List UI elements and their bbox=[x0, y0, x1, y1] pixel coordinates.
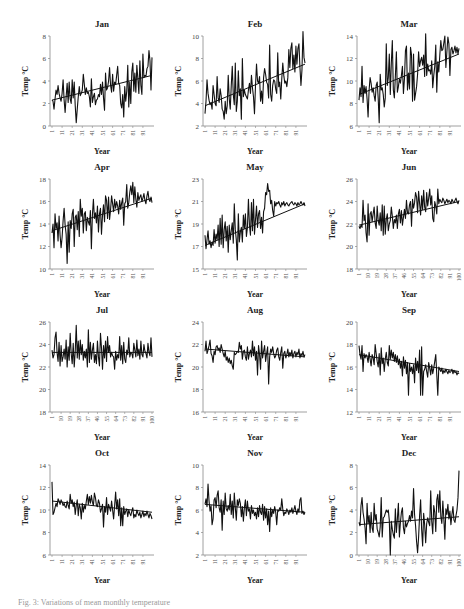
chart-aug: Aug16182022241112131415161718191YearTemp… bbox=[155, 300, 310, 448]
x-tick-label: 91 bbox=[447, 559, 453, 565]
y-tick-label: 20 bbox=[39, 386, 47, 394]
y-tick-label: 8 bbox=[350, 100, 354, 108]
x-tick-label: 11 bbox=[212, 559, 218, 565]
x-tick-label: 51 bbox=[407, 416, 413, 422]
y-tick-label: 0 bbox=[350, 552, 354, 560]
temperature-series bbox=[52, 182, 152, 263]
chart-svg: Oct681012141112131415161718191YearTemp °… bbox=[2, 443, 157, 591]
y-tick-label: 16 bbox=[346, 364, 354, 372]
x-tick-label: 21 bbox=[376, 130, 382, 136]
x-tick-label: 81 bbox=[130, 559, 136, 565]
y-tick-label: 4 bbox=[196, 529, 200, 537]
x-tick-label: 1 bbox=[49, 416, 55, 419]
y-tick-label: 6 bbox=[196, 78, 200, 86]
chart-svg: Nov2468101112131415161718191YearTemp °C bbox=[155, 443, 310, 591]
x-tick-label: 41 bbox=[242, 416, 248, 422]
temperature-series bbox=[52, 325, 152, 369]
x-tick-label: 1 bbox=[356, 416, 362, 419]
x-tick-label: 10 bbox=[365, 273, 371, 279]
x-tick-label: 51 bbox=[100, 130, 106, 136]
temperature-series bbox=[52, 482, 152, 527]
x-tick-label: 100 bbox=[456, 273, 462, 282]
x-tick-label: 1 bbox=[356, 559, 362, 562]
x-tick-label: 61 bbox=[110, 273, 116, 279]
chart-svg: Feb2468101112131415161718191YearTemp °C bbox=[155, 14, 310, 162]
x-tick-label: 1 bbox=[49, 130, 55, 133]
chart-title: Feb bbox=[248, 19, 263, 29]
x-tick-label: 51 bbox=[253, 130, 259, 136]
x-tick-label: 46 bbox=[94, 416, 100, 422]
y-tick-label: 6 bbox=[350, 484, 354, 492]
x-tick-label: 21 bbox=[69, 130, 75, 136]
y-tick-label: 18 bbox=[39, 176, 47, 184]
temperature-series bbox=[205, 484, 305, 531]
chart-title: Oct bbox=[95, 448, 109, 458]
x-axis-label: Year bbox=[94, 290, 110, 299]
temperature-series bbox=[205, 340, 305, 384]
x-tick-label: 19 bbox=[374, 273, 380, 279]
chart-may: May15171921231112131415161718191YearTemp… bbox=[155, 157, 310, 305]
y-tick-label: 20 bbox=[346, 319, 354, 327]
chart-svg: Jul1820222426110192837465564738291100Yea… bbox=[2, 300, 157, 448]
y-tick-label: 4 bbox=[350, 507, 354, 515]
chart-title: Jun bbox=[402, 162, 417, 172]
chart-title: Jul bbox=[96, 305, 109, 315]
x-tick-label: 41 bbox=[396, 130, 402, 136]
x-tick-label: 28 bbox=[383, 273, 389, 279]
x-tick-label: 61 bbox=[417, 416, 423, 422]
x-tick-label: 41 bbox=[242, 273, 248, 279]
x-tick-label: 41 bbox=[242, 559, 248, 565]
y-tick-label: 23 bbox=[192, 176, 200, 184]
x-tick-label: 10 bbox=[58, 416, 64, 422]
x-tick-label: 73 bbox=[429, 559, 435, 565]
figure-grid: Jan024681112131415161718191YearTemp °C F… bbox=[0, 0, 464, 609]
chart-jun: Jun1820222426110192837465564738291100Yea… bbox=[309, 157, 464, 305]
chart-title: Jan bbox=[95, 19, 109, 29]
y-tick-label: 18 bbox=[39, 409, 47, 417]
x-tick-label: 61 bbox=[110, 559, 116, 565]
chart-svg: Aug16182022241112131415161718191YearTemp… bbox=[155, 300, 310, 448]
y-tick-label: 15 bbox=[192, 266, 200, 274]
x-tick-label: 91 bbox=[140, 559, 146, 565]
x-tick-label: 91 bbox=[293, 273, 299, 279]
x-tick-label: 61 bbox=[263, 130, 269, 136]
chart-title: Apr bbox=[94, 162, 110, 172]
x-tick-label: 71 bbox=[427, 130, 433, 136]
x-tick-label: 91 bbox=[293, 559, 299, 565]
y-tick-label: 14 bbox=[39, 462, 47, 470]
y-tick-label: 16 bbox=[192, 409, 200, 417]
x-tick-label: 81 bbox=[130, 273, 136, 279]
x-tick-label: 31 bbox=[79, 273, 85, 279]
x-axis-label: Year bbox=[401, 147, 417, 156]
chart-mar: Mar681012141112131415161718191YearTemp °… bbox=[309, 14, 464, 162]
x-tick-label: 81 bbox=[283, 416, 289, 422]
x-tick-label: 19 bbox=[67, 416, 73, 422]
x-tick-label: 91 bbox=[140, 130, 146, 136]
x-tick-label: 81 bbox=[437, 416, 443, 422]
chart-jan: Jan024681112131415161718191YearTemp °C bbox=[2, 14, 157, 162]
y-axis-label: Temp °C bbox=[174, 66, 183, 96]
y-axis-label: Temp °C bbox=[21, 209, 30, 239]
x-tick-label: 1 bbox=[49, 559, 55, 562]
x-tick-label: 55 bbox=[411, 273, 417, 279]
y-tick-label: 10 bbox=[39, 507, 47, 515]
y-axis-label: Temp °C bbox=[328, 352, 337, 382]
y-tick-label: 24 bbox=[346, 198, 354, 206]
x-tick-label: 11 bbox=[59, 559, 65, 565]
x-tick-label: 71 bbox=[273, 130, 279, 136]
y-axis-label: Temp °C bbox=[328, 66, 337, 96]
y-tick-label: 17 bbox=[192, 243, 200, 251]
x-tick-label: 1 bbox=[202, 559, 208, 562]
chart-title: Mar bbox=[401, 19, 418, 29]
y-tick-label: 12 bbox=[39, 243, 47, 251]
y-tick-label: 8 bbox=[196, 55, 200, 63]
x-tick-label: 51 bbox=[253, 559, 259, 565]
chart-svg: Dec02468110192837465564738291100YearTemp… bbox=[309, 443, 464, 591]
x-tick-label: 19 bbox=[374, 559, 380, 565]
x-tick-label: 51 bbox=[253, 416, 259, 422]
x-tick-label: 73 bbox=[429, 273, 435, 279]
y-tick-label: 12 bbox=[39, 484, 47, 492]
chart-title: May bbox=[246, 162, 264, 172]
x-tick-label: 55 bbox=[104, 416, 110, 422]
y-tick-label: 26 bbox=[39, 319, 47, 327]
